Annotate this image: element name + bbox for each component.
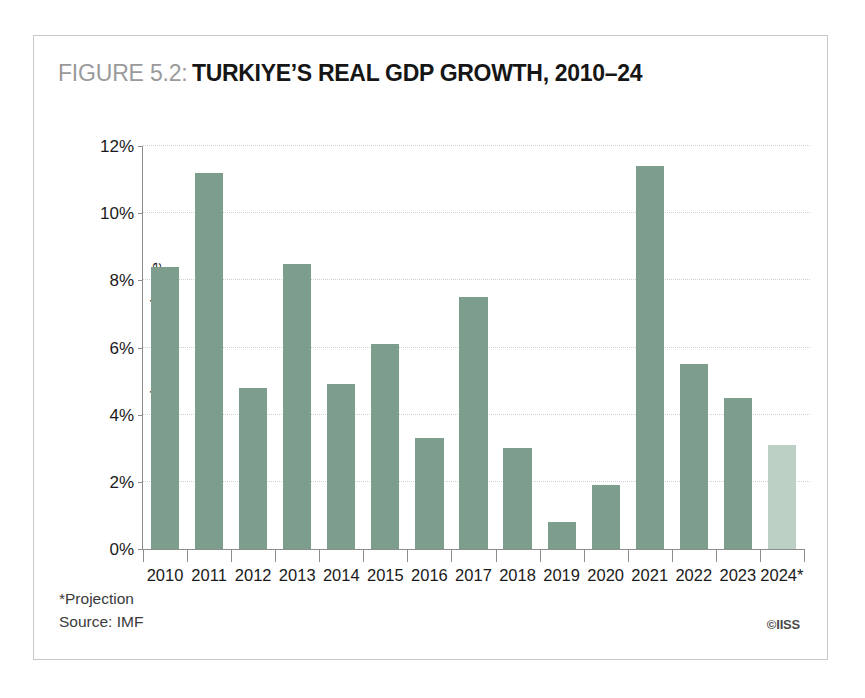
bar bbox=[327, 384, 355, 549]
copyright-credit: ©IISS bbox=[767, 617, 800, 632]
bar-slot bbox=[628, 146, 672, 549]
bars-group bbox=[143, 146, 804, 549]
bar-slot bbox=[584, 146, 628, 549]
x-axis-tick-label: 2019 bbox=[540, 566, 584, 585]
bar bbox=[371, 344, 399, 549]
bar-slot bbox=[231, 146, 275, 549]
bar-slot bbox=[363, 146, 407, 549]
x-axis-tick-mark bbox=[231, 549, 232, 562]
x-axis-tick-mark bbox=[496, 549, 497, 562]
figure-number-label: FIGURE 5.2: bbox=[58, 60, 187, 86]
bar-slot bbox=[760, 146, 804, 549]
bar-slot bbox=[187, 146, 231, 549]
source-note: Source: IMF bbox=[59, 611, 143, 633]
chart-container: annual percentage change 12%10%8%6%4%2%0… bbox=[114, 146, 804, 550]
x-axis-ticks bbox=[143, 549, 804, 562]
x-axis-tick-label: 2011 bbox=[187, 566, 231, 585]
bar bbox=[283, 264, 311, 549]
x-axis-tick-label: 2012 bbox=[231, 566, 275, 585]
bar bbox=[548, 522, 576, 549]
x-axis-tick-mark bbox=[143, 549, 144, 562]
x-axis-tick-mark bbox=[319, 549, 320, 562]
bar-slot bbox=[496, 146, 540, 549]
bar-slot bbox=[319, 146, 363, 549]
y-axis-tick-label: 8% bbox=[109, 272, 134, 289]
x-axis-labels: 2010201120122013201420152016201720182019… bbox=[143, 566, 804, 585]
bar bbox=[151, 267, 179, 549]
x-axis-tick-mark bbox=[451, 549, 452, 562]
x-axis-tick-mark bbox=[804, 549, 805, 562]
bar bbox=[592, 485, 620, 549]
x-axis-tick-label: 2020 bbox=[584, 566, 628, 585]
bar bbox=[724, 398, 752, 549]
x-axis-tick-mark bbox=[275, 549, 276, 562]
x-axis-tick-label: 2018 bbox=[496, 566, 540, 585]
bar-slot bbox=[407, 146, 451, 549]
y-axis-tick-label: 4% bbox=[109, 406, 134, 423]
y-axis-tick-label: 12% bbox=[100, 138, 134, 155]
x-axis-tick-label: 2013 bbox=[275, 566, 319, 585]
x-axis-tick-mark bbox=[407, 549, 408, 562]
bar-projected bbox=[768, 445, 796, 549]
x-axis-tick-mark bbox=[363, 549, 364, 562]
x-axis-tick-label: 2015 bbox=[363, 566, 407, 585]
y-axis-tick-label: 2% bbox=[109, 473, 134, 490]
x-axis-tick-label: 2016 bbox=[407, 566, 451, 585]
x-axis-tick-mark bbox=[584, 549, 585, 562]
x-axis-tick-label: 2014 bbox=[319, 566, 363, 585]
x-axis-tick-mark bbox=[760, 549, 761, 562]
bar bbox=[459, 297, 487, 549]
x-axis-tick-label: 2017 bbox=[451, 566, 495, 585]
x-axis-tick-label: 2024* bbox=[760, 566, 804, 585]
bar-slot bbox=[540, 146, 584, 549]
bar bbox=[503, 448, 531, 549]
y-axis-tick-label: 6% bbox=[109, 339, 134, 356]
bar bbox=[636, 166, 664, 549]
y-axis-tick-label: 10% bbox=[100, 205, 134, 222]
x-axis-tick-mark bbox=[672, 549, 673, 562]
x-axis-tick-label: 2022 bbox=[672, 566, 716, 585]
plot-area: 12%10%8%6%4%2%0% 20102011201220132014201… bbox=[142, 146, 804, 550]
x-axis-tick-mark bbox=[628, 549, 629, 562]
x-axis-tick-label: 2021 bbox=[628, 566, 672, 585]
projection-note: *Projection bbox=[59, 588, 143, 610]
bar-slot bbox=[143, 146, 187, 549]
bar-slot bbox=[275, 146, 319, 549]
figure-panel: FIGURE 5.2: TURKIYE’S REAL GDP GROWTH, 2… bbox=[33, 35, 828, 660]
bar bbox=[195, 173, 223, 549]
bar bbox=[239, 388, 267, 549]
bar-slot bbox=[451, 146, 495, 549]
bar-slot bbox=[716, 146, 760, 549]
x-axis-tick-mark bbox=[716, 549, 717, 562]
bar bbox=[415, 438, 443, 549]
bar-slot bbox=[672, 146, 716, 549]
x-axis-tick-label: 2010 bbox=[143, 566, 187, 585]
page-title: FIGURE 5.2: TURKIYE’S REAL GDP GROWTH, 2… bbox=[58, 62, 642, 85]
bar bbox=[680, 364, 708, 549]
y-axis-tick-label: 0% bbox=[109, 541, 134, 558]
figure-title-text: TURKIYE’S REAL GDP GROWTH, 2010–24 bbox=[192, 60, 642, 86]
x-axis-tick-label: 2023 bbox=[716, 566, 760, 585]
footnotes: *Projection Source: IMF bbox=[59, 588, 143, 633]
x-axis-tick-mark bbox=[187, 549, 188, 562]
x-axis-tick-mark bbox=[540, 549, 541, 562]
